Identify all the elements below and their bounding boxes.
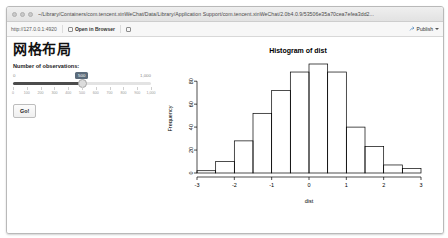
app-toolbar: http://127.0.0.1:4920 Open in Browser Pu…: [7, 22, 443, 37]
open-in-browser-label: Open in Browser: [75, 26, 115, 32]
slider-tick: [68, 87, 69, 90]
slider-tick: [96, 87, 97, 90]
traffic-lights: [12, 12, 33, 17]
histogram-bar: [216, 162, 235, 173]
window-title: ~/Library/Containers/com.tencent.xinWeCh…: [38, 11, 438, 17]
slider-tick-label: 500: [79, 91, 85, 95]
zoom-window-icon[interactable]: [28, 12, 33, 17]
x-axis-label: 2: [382, 182, 385, 188]
y-axis-title: Frequency: [167, 105, 173, 131]
histogram-bar: [309, 64, 328, 173]
app-page: 网格布局 Number of observations: 0 1,000 500…: [7, 37, 443, 233]
histogram-bar: [328, 72, 347, 173]
chart-panel: Histogram of dist020406080Frequency-3-2-…: [163, 42, 437, 233]
slider-tick: [41, 87, 42, 90]
x-axis-label: 0: [307, 182, 310, 188]
histogram-chart: Histogram of dist020406080Frequency-3-2-…: [163, 42, 437, 233]
x-axis-label: -1: [269, 182, 274, 188]
slider-track-fill: [13, 82, 82, 85]
slider-max-label: 1,000: [140, 73, 151, 78]
slider-tick: [27, 87, 28, 90]
slider-tick-label: 600: [93, 91, 99, 95]
slider-tick: [110, 87, 111, 90]
chevron-down-icon[interactable]: [435, 28, 439, 30]
publish-button[interactable]: Publish: [409, 26, 439, 32]
chart-title: Histogram of dist: [269, 47, 327, 55]
histogram-bar: [253, 113, 272, 173]
observations-label: Number of observations:: [13, 63, 163, 69]
slider-tick: [151, 87, 152, 90]
observations-slider[interactable]: 0 1,000 500 0100200300400500600700800900…: [13, 73, 153, 99]
y-axis-label: 60: [188, 101, 194, 107]
app-window: ~/Library/Containers/com.tencent.xinWeCh…: [6, 6, 444, 234]
histogram-bar: [290, 72, 309, 173]
histogram-bar: [234, 141, 253, 173]
histogram-bar: [384, 165, 403, 173]
slider-tick: [54, 87, 55, 90]
histogram-bar: [197, 171, 216, 173]
x-axis-label: -3: [195, 182, 200, 188]
controls-panel: 网格布局 Number of observations: 0 1,000 500…: [13, 42, 163, 233]
histogram-bar: [402, 168, 421, 173]
minimize-window-icon[interactable]: [20, 12, 25, 17]
slider-tick-label: 100: [24, 91, 30, 95]
slider-min-label: 0: [13, 73, 15, 78]
slider-tick-label: 1,000: [147, 91, 156, 95]
y-axis-label: 80: [188, 78, 194, 84]
slider-tick-label: 800: [120, 91, 126, 95]
slider-tick-label: 200: [38, 91, 44, 95]
slider-tick: [13, 87, 14, 90]
slider-tick: [123, 87, 124, 90]
slider-tick-label: 300: [51, 91, 57, 95]
app-url[interactable]: http://127.0.0.1:4920: [11, 26, 57, 32]
histogram-bar: [346, 127, 365, 173]
slider-tick-label: 700: [107, 91, 113, 95]
histogram-bar: [272, 90, 291, 173]
x-axis-label: -2: [232, 182, 237, 188]
slider-tick-label: 400: [65, 91, 71, 95]
page-title: 网格布局: [13, 42, 163, 57]
y-axis-label: 0: [188, 171, 194, 174]
slider-tick-label: 0: [12, 91, 14, 95]
histogram-bar: [365, 147, 384, 173]
open-in-browser-button[interactable]: Open in Browser: [68, 26, 115, 32]
reload-icon[interactable]: [126, 27, 131, 32]
y-axis-label: 40: [188, 124, 194, 130]
x-axis-label: 3: [419, 182, 422, 188]
publish-label: Publish: [417, 26, 433, 32]
publish-arrow-icon: [409, 26, 415, 32]
slider-tick: [137, 87, 138, 90]
browser-window-icon: [68, 27, 73, 32]
histogram-svg: Histogram of dist020406080Frequency-3-2-…: [163, 42, 433, 207]
slider-tick-label: 900: [134, 91, 140, 95]
slider-tick-labels: 01002003004005006007008009001,000: [13, 91, 153, 97]
y-axis-label: 20: [188, 147, 194, 153]
slider-tick: [82, 87, 83, 90]
x-axis-title: dist: [305, 198, 314, 204]
close-window-icon[interactable]: [12, 12, 17, 17]
toolbar-divider: [62, 25, 63, 33]
window-titlebar: ~/Library/Containers/com.tencent.xinWeCh…: [7, 7, 443, 22]
x-axis-label: 1: [345, 182, 348, 188]
slider-value-bubble: 500: [75, 72, 88, 79]
toolbar-divider-2: [120, 25, 121, 33]
go-button[interactable]: Go!: [13, 104, 36, 118]
